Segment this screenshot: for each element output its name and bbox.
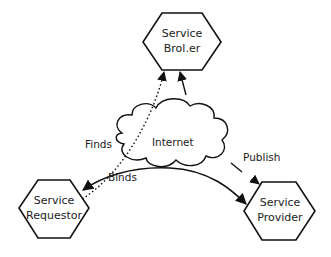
binds-label: Binds: [108, 171, 137, 183]
broker-label-line2: Brol.er: [164, 42, 201, 55]
service-requestor-node: Service Requestor: [19, 180, 89, 238]
service-broker-node: Service Brol.er: [143, 13, 221, 70]
cloud-label: Internet: [152, 136, 194, 148]
provider-label-line1: Service: [260, 196, 301, 209]
internet-cloud: Internet: [116, 99, 227, 167]
finds-label: Finds: [85, 138, 112, 150]
soa-diagram: Service Brol.er Internet Finds Binds Pub…: [0, 0, 331, 257]
publish-label: Publish: [243, 151, 280, 163]
broker-label-line1: Service: [162, 27, 203, 40]
requestor-label-line2: Requestor: [26, 209, 82, 222]
publish-broker-edge: [180, 72, 186, 95]
publish-arrowhead: [254, 180, 259, 184]
requestor-label-line1: Service: [34, 194, 75, 207]
provider-label-line2: Provider: [257, 211, 303, 224]
publish-edge: [231, 163, 242, 172]
service-provider-node: Service Provider: [244, 182, 315, 240]
binds-edge-to-provider: [170, 168, 246, 204]
